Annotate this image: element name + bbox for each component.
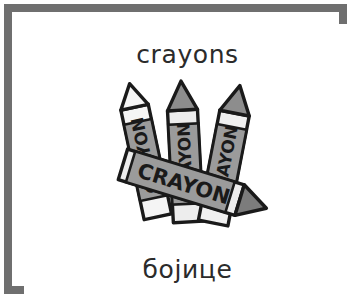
serbian-word-label: бојице [24,256,351,284]
crayons-illustration: CRAYON CRAYON CRAYON [102,76,274,236]
card-frame: crayons CRAYON [4,4,347,294]
english-word-label: crayons [24,41,351,69]
crayon-right-tip [220,83,255,116]
crayon-left-tip [116,81,148,110]
flashcard: crayons CRAYON [0,0,351,298]
card-inner: crayons CRAYON [24,24,351,298]
crayon-left: CRAYON [116,81,172,220]
crayon-middle-tip [166,80,197,111]
